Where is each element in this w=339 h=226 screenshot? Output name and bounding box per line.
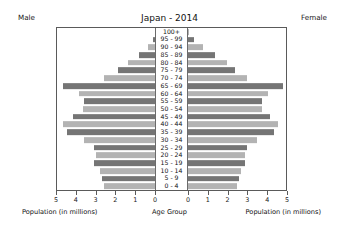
female-bar-cell	[188, 182, 286, 190]
female-bar-cell	[188, 167, 286, 175]
age-group-label-text: 5 - 9	[164, 175, 178, 181]
left-axis-tick-label: 3	[94, 196, 98, 204]
male-bar	[96, 153, 155, 159]
male-bar-cell	[57, 128, 155, 136]
male-bar	[94, 160, 155, 166]
age-group-label-text: 20 - 24	[161, 152, 183, 158]
male-bar-cell	[57, 121, 155, 129]
left-axis-tick-label: 4	[74, 196, 78, 204]
male-bar	[63, 122, 155, 128]
male-bar-cell	[57, 43, 155, 51]
male-bar-cell	[57, 144, 155, 152]
female-bar	[188, 83, 283, 89]
pyramid-row: 0 - 4	[57, 182, 286, 190]
pyramid-row: 65 - 69	[57, 82, 286, 90]
female-bar-cell	[188, 90, 286, 98]
male-bar-cell	[57, 67, 155, 75]
male-bar-cell	[57, 97, 155, 105]
female-bar-cell	[188, 105, 286, 113]
left-axis-tick	[96, 191, 97, 195]
age-group-label-text: 0 - 4	[164, 183, 178, 189]
female-bar	[188, 44, 203, 50]
female-bar-cell	[188, 121, 286, 129]
male-bar	[128, 60, 155, 66]
right-axis-tick-label: 3	[245, 196, 249, 204]
pyramid-row: 15 - 19	[57, 159, 286, 167]
male-bar-cell	[57, 74, 155, 82]
female-bar-cell	[188, 97, 286, 105]
female-bar	[188, 68, 235, 74]
male-bar-cell	[57, 28, 155, 36]
male-bar	[63, 83, 155, 89]
pyramid-row: 90 - 94	[57, 43, 286, 51]
right-axis-tick	[188, 191, 189, 195]
age-group-label-text: 70 - 74	[161, 75, 183, 81]
right-axis-tick	[228, 191, 229, 195]
right-axis-tick	[208, 191, 209, 195]
female-bar-cell	[188, 175, 286, 183]
male-bar-cell	[57, 51, 155, 59]
left-axis-tick-label: 2	[113, 196, 117, 204]
female-bar-cell	[188, 36, 286, 44]
right-axis: 012345	[188, 191, 287, 196]
male-bar	[73, 114, 155, 120]
left-axis-tick	[155, 191, 156, 195]
female-bar-cell	[188, 59, 286, 67]
population-pyramid-chart: Male Japan - 2014 Female 100+95 - 9990 -…	[0, 0, 339, 226]
left-axis-tick	[135, 191, 136, 195]
female-bar-cell	[188, 152, 286, 160]
pyramid-row: 50 - 54	[57, 105, 286, 113]
male-bar-cell	[57, 113, 155, 121]
left-axis-tick-label: 1	[133, 196, 137, 204]
age-group-label-text: 10 - 14	[161, 168, 183, 174]
male-bar	[94, 145, 155, 151]
male-bar	[67, 129, 155, 135]
age-group-label: 70 - 74	[155, 74, 188, 82]
male-bar-cell	[57, 136, 155, 144]
age-group-label-text: 35 - 39	[161, 129, 183, 135]
female-legend-label: Female	[301, 11, 327, 25]
male-bar-cell	[57, 105, 155, 113]
female-bar	[188, 129, 274, 135]
age-group-label-text: 50 - 54	[161, 106, 183, 112]
age-group-label-text: 60 - 64	[161, 91, 183, 97]
male-bar-cell	[57, 59, 155, 67]
chart-title: Japan - 2014	[0, 11, 339, 25]
age-group-label: 85 - 89	[155, 51, 188, 59]
pyramid-row: 30 - 34	[57, 136, 286, 144]
female-bar-cell	[188, 113, 286, 121]
plot-area: 100+95 - 9990 - 9485 - 8980 - 8475 - 797…	[56, 27, 287, 191]
male-bar-cell	[57, 152, 155, 160]
age-group-label-text: 40 - 44	[161, 121, 183, 127]
female-bar	[188, 98, 263, 104]
age-group-label-text: 65 - 69	[161, 83, 183, 89]
male-bar	[102, 176, 155, 182]
female-bar-cell	[188, 159, 286, 167]
age-group-label: 30 - 34	[155, 136, 188, 144]
male-bar	[79, 91, 156, 97]
right-axis-tick-label: 1	[206, 196, 210, 204]
female-bar	[188, 37, 194, 43]
age-group-label: 90 - 94	[155, 43, 188, 51]
female-bar-cell	[188, 43, 286, 51]
female-bar-cell	[188, 128, 286, 136]
age-group-label-text: 90 - 94	[161, 44, 183, 50]
female-bar	[188, 114, 270, 120]
pyramid-row: 35 - 39	[57, 128, 286, 136]
age-group-label: 65 - 69	[155, 82, 188, 90]
male-bar	[100, 168, 155, 174]
male-bar	[84, 98, 155, 104]
right-axis-tick-label: 5	[285, 196, 289, 204]
female-bar	[188, 60, 227, 66]
female-bar	[188, 168, 241, 174]
male-bar-cell	[57, 90, 155, 98]
female-bar	[188, 75, 247, 81]
female-bar	[188, 106, 263, 112]
right-axis-tick	[267, 191, 268, 195]
right-axis-tick-label: 4	[265, 196, 269, 204]
age-group-label: 15 - 19	[155, 159, 188, 167]
left-axis: 543210	[56, 191, 155, 196]
age-group-label-text: 15 - 19	[161, 160, 183, 166]
female-bar	[188, 176, 239, 182]
male-bar	[104, 183, 155, 189]
